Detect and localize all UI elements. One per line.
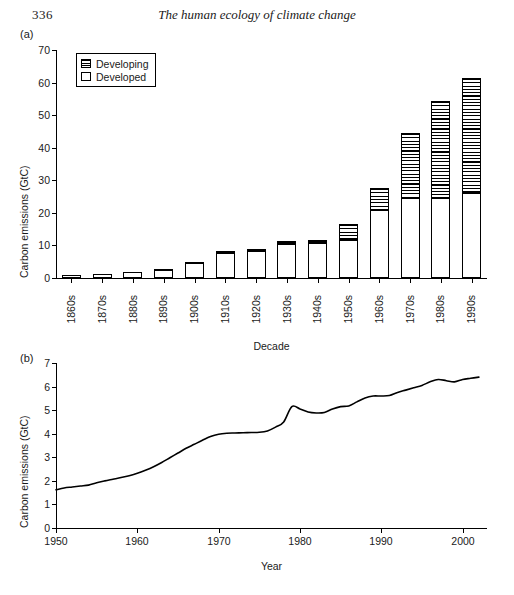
bar-segment-developed: [277, 244, 296, 278]
panel-a-x-tick: [379, 279, 380, 283]
bar-1960s: [370, 188, 389, 278]
bar-1990s: [462, 78, 481, 278]
panel-a-x-tick: [441, 279, 442, 283]
panel-a-y-tick: [52, 115, 56, 116]
panel-a-x-tick-label: 1970s: [405, 295, 416, 324]
bar-segment-developed: [185, 263, 204, 278]
panel-b-y-tick-label: 7: [26, 358, 50, 369]
panel-b-x-tick-label: 1970: [197, 536, 241, 547]
legend-panel-a: DevelopingDeveloped: [76, 53, 156, 87]
panel-b-y-tick: [52, 434, 56, 435]
bar-segment-developed: [370, 210, 389, 278]
panel-b-line-chart: (b) 01234567195019601970198019902000Carb…: [0, 330, 514, 595]
panel-b-x-tick-label: 1980: [278, 536, 322, 547]
bar-1880s: [123, 272, 142, 278]
panel-a-x-tick: [287, 279, 288, 283]
panel-a-x-tick: [133, 279, 134, 283]
bar-segment-developed: [216, 253, 235, 278]
panel-a-x-tick-label: 1980s: [436, 295, 447, 324]
figure-page: 336 The human ecology of climate change …: [0, 0, 514, 595]
panel-a-x-axis: [56, 278, 487, 279]
panel-a-y-tick: [52, 83, 56, 84]
panel-a-y-tick-label: 70: [24, 45, 50, 56]
bar-segment-developing: [431, 101, 450, 199]
bar-1890s: [154, 269, 173, 278]
bar-1930s: [277, 241, 296, 278]
panel-b-x-axis: [56, 528, 487, 529]
panel-a-x-tick-label: 1940s: [312, 295, 323, 324]
legend-item-developed: Developed: [81, 70, 149, 83]
panel-a-x-tick-label: 1950s: [343, 295, 354, 324]
panel-a-x-tick: [410, 279, 411, 283]
bar-segment-developed: [123, 272, 142, 278]
panel-a-y-tick: [52, 213, 56, 214]
legend-item-developing: Developing: [81, 57, 149, 70]
panel-a-x-tick-label: 1880s: [128, 295, 139, 324]
panel-b-y-tick-label: 6: [26, 382, 50, 393]
legend-label-developed: Developed: [96, 72, 146, 83]
panel-b-y-tick: [52, 457, 56, 458]
bar-segment-developed: [62, 275, 81, 278]
bar-segment-developing: [339, 224, 358, 240]
panel-b-x-axis-title: Year: [56, 560, 487, 572]
legend-swatch-developed: [81, 72, 91, 81]
panel-a-y-tick-label: 40: [24, 143, 50, 154]
panel-b-y-tick-label: 5: [26, 405, 50, 416]
panel-a-x-tick-label: 1860s: [66, 295, 77, 324]
panel-a-x-tick: [164, 279, 165, 283]
bar-1950s: [339, 224, 358, 278]
bar-segment-developed: [339, 240, 358, 278]
bar-segment-developed: [308, 243, 327, 278]
panel-b-y-tick: [52, 387, 56, 388]
panel-b-y-axis-title: Carbon emissions (GtC): [18, 415, 30, 528]
legend-swatch-developing: [81, 59, 91, 68]
panel-a-y-tick-label: 60: [24, 78, 50, 89]
panel-a-x-tick-label: 1890s: [159, 295, 170, 324]
panel-a-x-tick-label: 1910s: [220, 295, 231, 324]
panel-b-y-tick: [52, 410, 56, 411]
panel-a-x-tick: [256, 279, 257, 283]
panel-a-y-tick: [52, 148, 56, 149]
panel-b-x-tick: [463, 529, 464, 533]
panel-a-x-tick-label: 1960s: [374, 295, 385, 324]
panel-b-x-tick: [137, 529, 138, 533]
panel-b-y-tick: [52, 481, 56, 482]
panel-a-label: (a): [20, 28, 33, 40]
legend-label-developing: Developing: [96, 59, 149, 70]
panel-b-x-tick-label: 1990: [359, 536, 403, 547]
panel-a-x-tick: [318, 279, 319, 283]
panel-a-x-tick-label: 1930s: [282, 295, 293, 324]
panel-a-y-tick: [52, 245, 56, 246]
panel-a-bar-chart: (a) DevelopingDeveloped 010203040506070C…: [0, 28, 514, 338]
panel-a-x-tick-label-wrap: 1990s: [452, 288, 492, 302]
bar-segment-developed: [462, 193, 481, 278]
panel-a-x-tick: [71, 279, 72, 283]
panel-a-y-tick: [52, 50, 56, 51]
panel-b-x-tick-label: 1950: [34, 536, 78, 547]
bar-segment-developed: [431, 198, 450, 278]
panel-b-x-tick: [219, 529, 220, 533]
panel-b-x-tick: [56, 529, 57, 533]
panel-b-y-axis: [56, 363, 57, 529]
bar-1910s: [216, 251, 235, 278]
bar-segment-developing: [462, 78, 481, 194]
bar-segment-developed: [401, 198, 420, 278]
panel-a-x-tick: [195, 279, 196, 283]
panel-b-x-tick: [381, 529, 382, 533]
running-head: 336 The human ecology of climate change: [0, 7, 514, 25]
bar-1940s: [308, 240, 327, 278]
bar-segment-developed: [154, 270, 173, 278]
bar-1870s: [93, 274, 112, 278]
bar-1900s: [185, 262, 204, 278]
panel-a-y-tick: [52, 180, 56, 181]
emissions-curve: [56, 377, 479, 490]
bar-segment-developing: [401, 133, 420, 198]
running-title: The human ecology of climate change: [0, 7, 514, 23]
panel-a-x-tick: [225, 279, 226, 283]
panel-b-y-tick: [52, 363, 56, 364]
panel-a-x-tick: [349, 279, 350, 283]
panel-a-y-axis-title: Carbon emissions (GtC): [18, 165, 30, 278]
panel-b-y-tick: [52, 504, 56, 505]
panel-a-x-tick: [102, 279, 103, 283]
bar-1970s: [401, 133, 420, 278]
